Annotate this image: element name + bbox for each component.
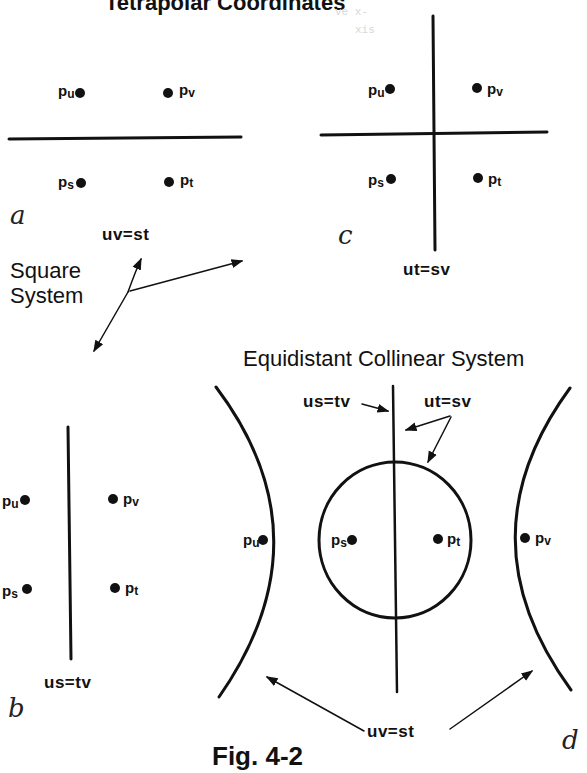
point-label-pt-d: pt — [447, 530, 460, 547]
point-pt-a — [164, 177, 174, 187]
arrow-uv-st-left — [267, 677, 364, 731]
point-pv-d — [520, 533, 530, 543]
panel-c-equation: ut=sv — [403, 260, 450, 280]
panel-a-divider-line — [9, 137, 241, 139]
panel-b-vertical-line — [68, 427, 71, 659]
arrow-to-panel-c — [130, 261, 242, 291]
arrow-us-tv — [362, 404, 388, 411]
point-label-ps-a: ps — [58, 173, 74, 190]
panel-d-hyperbola-equation: uv=st — [367, 722, 414, 742]
point-label-pv-d: pv — [535, 529, 551, 546]
point-label-pu-c: pu — [368, 81, 385, 98]
point-ps-b — [22, 584, 32, 594]
point-ps-c — [386, 174, 396, 184]
point-pt-d — [433, 534, 443, 544]
point-pu-b — [20, 495, 30, 505]
panel-d-line-equation: us=tv — [303, 392, 350, 412]
diagram-canvas — [0, 0, 587, 773]
point-pv-a — [163, 88, 173, 98]
figure-caption: Fig. 4-2 — [212, 741, 303, 772]
point-label-pv-a: pv — [179, 81, 195, 98]
panel-d-vertical-line — [393, 386, 397, 692]
arrow-ut-sv-to-line — [406, 416, 450, 430]
point-label-pv-c: pv — [487, 80, 503, 97]
point-pu-c — [385, 84, 395, 94]
panel-c-horizontal-line — [321, 132, 547, 135]
arrow-to-panel-a — [128, 259, 141, 292]
panel-label-b: b — [8, 693, 25, 723]
point-pt-c — [473, 173, 483, 183]
point-pv-b — [108, 494, 118, 504]
square-system-label-line2: System — [10, 283, 83, 309]
point-label-pv-b: pv — [123, 490, 139, 507]
square-system-label-line1: Square — [10, 258, 81, 284]
panel-label-d: d — [562, 725, 579, 755]
point-label-ps-b: ps — [2, 582, 18, 599]
panel-d-circle-equation: ut=sv — [424, 392, 471, 412]
point-label-ps-d: ps — [331, 531, 347, 548]
point-pv-c — [472, 83, 482, 93]
panel-label-c: c — [338, 220, 353, 250]
point-label-pt-a: pt — [180, 171, 193, 188]
point-ps-d — [347, 535, 357, 545]
point-pt-b — [110, 583, 120, 593]
point-pu-a — [75, 88, 85, 98]
point-label-ps-c: ps — [368, 171, 384, 188]
panel-a-equation: uv=st — [102, 225, 149, 245]
panel-d-title: Equidistant Collinear System — [243, 346, 524, 372]
point-label-pu-b: pu — [2, 492, 19, 509]
arrow-uv-st-right — [450, 671, 532, 729]
point-label-pt-b: pt — [125, 579, 138, 596]
point-label-pu-a: pu — [58, 82, 75, 99]
arrow-to-panel-b — [94, 292, 128, 351]
panel-label-a: a — [10, 200, 26, 230]
point-label-pt-c: pt — [488, 170, 501, 187]
point-pu-d — [258, 535, 268, 545]
panel-b-equation: us=tv — [44, 673, 91, 693]
arrow-ut-sv-to-circle — [428, 417, 451, 462]
point-ps-a — [76, 178, 86, 188]
